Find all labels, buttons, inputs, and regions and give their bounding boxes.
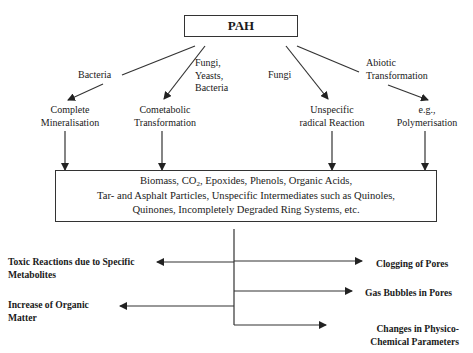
bacteria-arrow — [68, 84, 103, 100]
effect-toxic-reactions: Toxic Reactions due to Specific Metaboli… — [8, 255, 135, 281]
effect-increase-organic-matter: Increase of Organic Matter — [8, 298, 89, 324]
abiotic-connector-upper — [297, 46, 359, 72]
pah-degradation-diagram: PAH Bacteria Fungi, Yeasts, Bacteria Fun… — [0, 0, 473, 353]
abiotic-arrow — [388, 85, 428, 100]
pah-label: PAH — [228, 18, 254, 34]
effect-physico-chemical-changes: Changes in Physico- Chemical Parameters — [340, 322, 459, 348]
process-cometabolic-transformation: Cometabolic Transformation — [118, 104, 212, 129]
agent-bacteria: Bacteria — [78, 69, 111, 82]
process-unspecific-radical-reaction: Unspecific radical Reaction — [292, 104, 372, 129]
products-line-3: Quinones, Incompletely Degraded Ring Sys… — [56, 203, 436, 218]
effect-clogging-of-pores: Clogging of Pores — [376, 257, 448, 270]
products-box: Biomass, CO2, Epoxides, Phenols, Organic… — [55, 170, 437, 222]
process-complete-mineralisation: Complete Mineralisation — [28, 104, 112, 129]
products-line-2: Tar- and Asphalt Particles, Unspecific I… — [56, 189, 436, 204]
agent-abiotic-transformation: Abiotic Transformation — [366, 57, 428, 82]
fungi-arrow — [286, 46, 328, 99]
bacteria-connector-upper — [122, 46, 195, 75]
agent-fungi-yeasts-bacteria: Fungi, Yeasts, Bacteria — [195, 57, 228, 95]
effect-gas-bubbles: Gas Bubbles in Pores — [365, 286, 452, 299]
agent-fungi: Fungi — [268, 69, 291, 82]
process-polymerisation: e.g., Polymerisation — [392, 104, 462, 129]
products-line-1: Biomass, CO2, Epoxides, Phenols, Organic… — [56, 174, 436, 189]
pah-box: PAH — [184, 15, 298, 37]
